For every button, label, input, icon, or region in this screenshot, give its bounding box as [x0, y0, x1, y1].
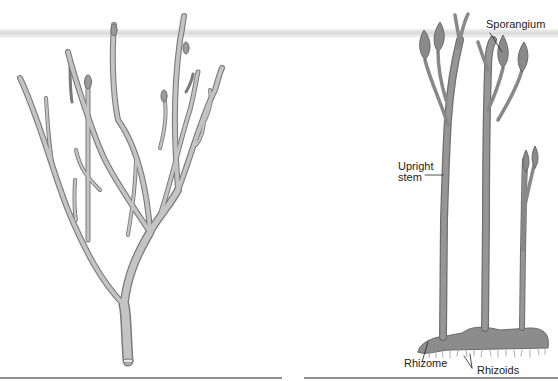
- branching-plant-illustration: [0, 0, 558, 381]
- right-panel-divider: [304, 377, 558, 379]
- label-sporangium: Sporangium: [486, 18, 545, 30]
- label-upright-stem-line2: stem: [398, 171, 422, 183]
- label-rhizome: Rhizome: [404, 357, 447, 369]
- label-rhizoids: Rhizoids: [477, 364, 519, 376]
- left-panel-divider: [0, 377, 282, 379]
